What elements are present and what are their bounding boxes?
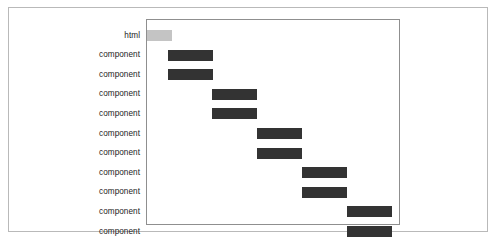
bar-0 — [147, 30, 172, 41]
bar-4 — [212, 108, 257, 119]
plot-frame — [146, 19, 400, 225]
row-label-6: component — [3, 148, 146, 157]
bar-5 — [257, 128, 302, 139]
row-label-2: component — [3, 70, 146, 79]
plot-area — [147, 20, 399, 224]
row-label-1: component — [3, 50, 146, 59]
row-label-5: component — [3, 129, 146, 138]
row-label-4: component — [3, 109, 146, 118]
bar-3 — [212, 89, 257, 100]
row-label-0: html — [3, 31, 146, 40]
bar-6 — [257, 148, 302, 159]
bar-8 — [302, 187, 347, 198]
bar-7 — [302, 167, 347, 178]
row-label-column: htmlcomponentcomponentcomponentcomponent… — [9, 8, 146, 233]
bar-2 — [168, 69, 213, 80]
bar-1 — [168, 50, 213, 61]
chart-card: htmlcomponentcomponentcomponentcomponent… — [8, 7, 488, 232]
row-label-3: component — [3, 89, 146, 98]
row-label-9: component — [3, 207, 146, 216]
row-label-10: component — [3, 227, 146, 236]
figure-canvas: htmlcomponentcomponentcomponentcomponent… — [0, 0, 496, 240]
row-label-7: component — [3, 168, 146, 177]
bar-9 — [347, 206, 392, 217]
bar-10 — [347, 226, 392, 237]
row-label-8: component — [3, 187, 146, 196]
